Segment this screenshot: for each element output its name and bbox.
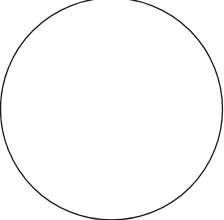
diagram-canvas bbox=[0, 0, 224, 220]
circle-outline bbox=[1, 0, 223, 220]
